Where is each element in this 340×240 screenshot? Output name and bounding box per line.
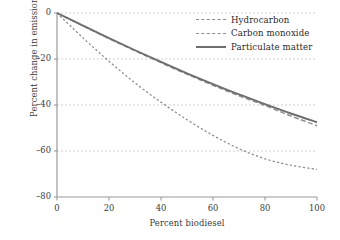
legend-swatch-dashed-icon [196,29,226,37]
legend-item-particulate-matter: Particulate matter [196,40,313,54]
x-tick-label: 40 [145,203,177,213]
y-tick-label: –80 [23,191,51,201]
x-tick-label: 100 [301,203,333,213]
legend-label: Hydrocarbon [231,15,290,25]
chart-legend: Hydrocarbon Carbon monoxide Particulate … [196,13,313,54]
x-tick-label: 80 [249,203,281,213]
chart-figure: Percent change in emissions Percent biod… [0,0,340,240]
y-tick-label: –20 [23,53,51,63]
x-tick-label: 60 [197,203,229,213]
y-axis-label: Percent change in emissions [29,0,39,135]
x-axis-label: Percent biodiesel [57,218,317,228]
x-tick-label: 20 [93,203,125,213]
legend-label: Particulate matter [231,42,313,52]
y-tick-label: 0 [23,7,51,17]
y-tick-label: –60 [23,145,51,155]
legend-label: Carbon monoxide [231,28,309,38]
legend-swatch-solid-icon [196,43,226,51]
y-tick-label: –40 [23,99,51,109]
x-tick-label: 0 [41,203,73,213]
legend-item-carbon-monoxide: Carbon monoxide [196,27,313,41]
legend-swatch-dotted-dashed-icon [196,16,226,24]
legend-item-hydrocarbon: Hydrocarbon [196,13,313,27]
